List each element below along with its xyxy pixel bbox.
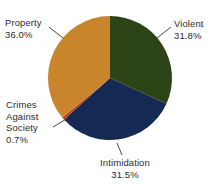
- leader-line-intimidation: [117, 143, 122, 155]
- pie-label-property-value: 36.0%: [5, 29, 42, 41]
- pie-label-crimes-against-society-line1: Crimes: [6, 99, 38, 111]
- pie-label-crimes-against-society-value: 0.7%: [6, 134, 38, 146]
- pie-chart-figure: Violent 31.8% Property 36.0% Crimes Agai…: [0, 0, 219, 186]
- pie-label-violent-name: Violent: [174, 18, 204, 30]
- leader-line-crimes-against-society: [53, 118, 68, 127]
- pie-label-intimidation-value: 31.5%: [86, 169, 164, 181]
- pie-label-property: Property 36.0%: [5, 17, 42, 40]
- pie-label-violent: Violent 31.8%: [174, 18, 204, 41]
- leader-line-violent: [157, 27, 171, 38]
- leader-line-property: [49, 27, 63, 38]
- pie-label-violent-value: 31.8%: [174, 30, 204, 42]
- pie-label-property-name: Property: [5, 17, 42, 29]
- pie-label-crimes-against-society: Crimes Against Society 0.7%: [6, 99, 38, 145]
- pie-label-crimes-against-society-line3: Society: [6, 122, 38, 134]
- pie-label-intimidation-name: Intimidation: [86, 157, 164, 169]
- pie-label-crimes-against-society-line2: Against: [6, 111, 38, 123]
- pie-label-intimidation: Intimidation 31.5%: [86, 157, 164, 180]
